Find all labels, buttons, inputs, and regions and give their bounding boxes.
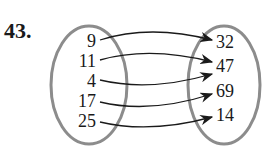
range-element: 32 [216, 32, 234, 52]
arrow-11-to-47 [100, 53, 212, 62]
domain-element: 17 [78, 91, 96, 111]
arrow-4-to-47 [100, 74, 212, 85]
range-element: 47 [216, 56, 234, 76]
domain-element: 9 [87, 31, 96, 51]
range-element: 69 [216, 81, 234, 101]
arrow-17-to-69 [100, 94, 212, 107]
domain-element: 4 [87, 71, 96, 91]
mapping-diagram: 9 11 4 17 25 32 47 69 14 [0, 0, 262, 150]
range-element: 14 [216, 105, 234, 125]
arrow-9-to-32 [100, 32, 212, 40]
domain-element: 11 [79, 51, 96, 71]
domain-element: 25 [78, 111, 96, 131]
